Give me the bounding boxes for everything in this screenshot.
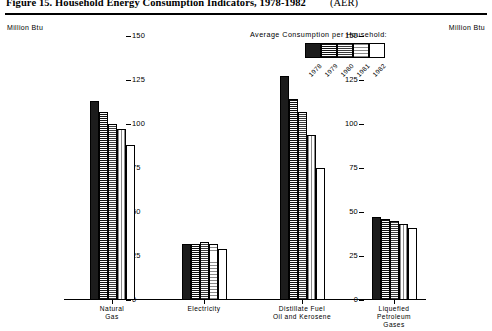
x-tick-2 <box>302 300 303 304</box>
bar-1978-1 <box>182 244 191 300</box>
bar-1979-1 <box>191 244 200 300</box>
x-tick-1 <box>204 300 205 304</box>
title-bar: Figure 15. Household Energy Consumption … <box>0 0 492 11</box>
right-axis-unit: Million Btu <box>449 24 485 31</box>
bar-1981-3 <box>399 224 408 300</box>
bar-1980-1 <box>200 242 209 300</box>
bar-1982-2 <box>316 168 325 300</box>
bar-group-0: Natural Gas <box>90 36 135 300</box>
bar-1981-2 <box>307 135 316 300</box>
bar-1979-3 <box>381 219 390 300</box>
bar-1979-2 <box>289 99 298 300</box>
plot-area: 0255075100125150 0255075100125150 Natura… <box>64 36 426 300</box>
bar-group-1: Electricity <box>182 36 227 300</box>
bar-1980-3 <box>390 221 399 300</box>
bar-1982-1 <box>218 249 227 300</box>
page-title: Figure 15. Household Energy Consumption … <box>6 0 306 8</box>
bar-1980-0 <box>108 124 117 300</box>
left-axis-unit: Million Btu <box>7 24 43 31</box>
x-tick-3 <box>394 300 395 304</box>
source-note: (AER) <box>330 0 358 8</box>
bar-1982-3 <box>408 228 417 300</box>
bar-1981-1 <box>209 244 218 300</box>
title-divider <box>5 13 487 15</box>
bar-1980-2 <box>298 112 307 300</box>
x-axis-label-3: Liquefied Petroleum Gases <box>319 305 469 329</box>
bar-1978-2 <box>280 76 289 300</box>
bar-1978-0 <box>90 101 99 300</box>
bar-1981-0 <box>117 129 126 300</box>
bar-group-2: Distillate Fuel Oil and Kerosene <box>280 36 325 300</box>
bar-group-3: Liquefied Petroleum Gases <box>372 36 417 300</box>
x-tick-0 <box>112 300 113 304</box>
chart-page: Figure 15. Household Energy Consumption … <box>0 0 492 331</box>
bar-1978-3 <box>372 217 381 300</box>
bar-1982-0 <box>126 145 135 300</box>
bar-1979-0 <box>99 112 108 300</box>
